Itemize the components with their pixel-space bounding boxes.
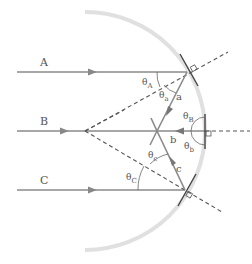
angle-label-theta-B: θB	[183, 111, 194, 124]
angle-arc-theta-A	[157, 72, 160, 87]
ray-label-B: B	[40, 115, 48, 128]
incident-ray-C	[17, 187, 185, 194]
diagram-canvas: A B C a b c θA θa θB θb θC θc	[0, 0, 252, 264]
reflected-label-a: a	[176, 91, 182, 102]
angle-arc-theta-C	[138, 166, 144, 190]
angle-label-theta-C: θC	[126, 172, 137, 185]
angle-label-theta-a: θa	[159, 90, 169, 103]
reflected-label-c: c	[176, 163, 182, 174]
normal-line-C	[85, 131, 222, 212]
curved-mirror-diagram: A B C a b c θA θa θB θb θC θc	[0, 0, 252, 264]
angle-label-theta-c: θc	[148, 150, 157, 163]
ray-label-C: C	[40, 174, 48, 187]
incident-ray-A	[17, 69, 187, 76]
reflected-ray-a	[157, 72, 187, 131]
ray-label-A: A	[39, 56, 49, 69]
reflected-ray-c-extension	[151, 118, 157, 131]
angle-label-theta-b: θb	[184, 141, 194, 154]
reflected-ray-a-extension	[150, 131, 157, 145]
angle-label-theta-A: θA	[142, 77, 153, 90]
right-angle-mark-A	[190, 65, 197, 72]
reflected-label-b: b	[170, 134, 176, 145]
normal-line-left-top	[85, 110, 124, 131]
